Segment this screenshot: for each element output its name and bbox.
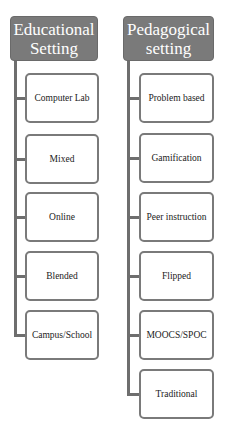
node-computer-lab: Computer Lab bbox=[25, 73, 99, 123]
node-label: Traditional bbox=[156, 389, 198, 399]
header-pedagogical-setting: Pedagogical setting bbox=[123, 16, 214, 61]
connector-branch bbox=[14, 334, 25, 337]
node-campus-school: Campus/School bbox=[25, 310, 99, 360]
connector-branch bbox=[127, 97, 139, 100]
node-peer-instruction: Peer instruction bbox=[139, 192, 214, 242]
node-label: Gamification bbox=[151, 153, 201, 163]
node-mixed: Mixed bbox=[25, 134, 99, 184]
node-label: Campus/School bbox=[32, 330, 92, 340]
connector-trunk bbox=[14, 61, 17, 337]
header-line: Setting bbox=[13, 39, 94, 58]
connector-trunk bbox=[127, 61, 130, 396]
node-traditional: Traditional bbox=[139, 369, 214, 419]
node-gamification: Gamification bbox=[139, 133, 214, 183]
node-moocs-spoc: MOOCS/SPOC bbox=[139, 310, 214, 360]
node-label: Computer Lab bbox=[34, 93, 89, 103]
connector-branch bbox=[127, 275, 139, 278]
node-label: Mixed bbox=[50, 154, 75, 164]
node-flipped: Flipped bbox=[139, 251, 214, 301]
node-label: MOOCS/SPOC bbox=[146, 330, 206, 340]
connector-branch bbox=[14, 275, 25, 278]
node-label: Flipped bbox=[162, 271, 191, 281]
connector-branch bbox=[14, 216, 25, 219]
node-label: Problem based bbox=[148, 93, 204, 103]
node-label: Online bbox=[49, 212, 75, 222]
header-line: Educational bbox=[13, 20, 94, 39]
connector-branch bbox=[127, 393, 139, 396]
connector-branch bbox=[14, 158, 25, 161]
node-blended: Blended bbox=[25, 251, 99, 301]
header-educational-setting: Educational Setting bbox=[10, 16, 98, 61]
connector-branch bbox=[127, 334, 139, 337]
connector-branch bbox=[127, 157, 139, 160]
node-problem-based: Problem based bbox=[139, 73, 214, 123]
header-line: setting bbox=[127, 39, 210, 58]
header-line: Pedagogical bbox=[127, 20, 210, 39]
node-label: Blended bbox=[46, 271, 78, 281]
node-label: Peer instruction bbox=[147, 212, 207, 222]
node-online: Online bbox=[25, 192, 99, 242]
connector-branch bbox=[14, 97, 25, 100]
connector-branch bbox=[127, 216, 139, 219]
